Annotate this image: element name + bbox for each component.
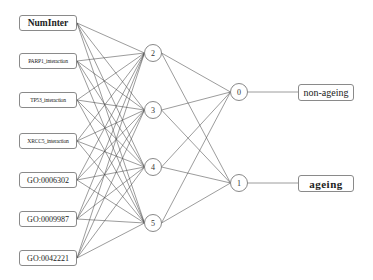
svg-text:5: 5 [151, 219, 155, 228]
edge-in1-h4 [77, 61, 145, 167]
svg-text:4: 4 [151, 163, 155, 172]
edge-in6-h4 [77, 167, 145, 258]
input-node-xrcc5-interaction: XRCC5_interaction [19, 133, 77, 149]
edge-in5-h5 [77, 219, 145, 223]
input-node-parp1-interaction: PARP1_interaction [19, 53, 77, 69]
edge-h3-o0 [162, 92, 231, 110]
edge-in0-h4 [77, 23, 145, 167]
hidden-node-2: 2 [145, 45, 162, 62]
edge-in2-h3 [77, 100, 145, 110]
edge-in5-h3 [77, 110, 145, 219]
svg-text:1: 1 [237, 179, 241, 188]
hidden-node-4: 4 [145, 159, 162, 176]
output-label-ageing: ageing [298, 175, 354, 192]
edge-in6-h3 [77, 110, 145, 258]
svg-text:0: 0 [237, 88, 241, 97]
edge-in6-h5 [77, 223, 145, 258]
input-node-go-0009987: GO:0009987 [19, 211, 77, 227]
input-node-tp53-interaction: TP53_interaction [19, 92, 77, 108]
edge-h5-o0 [162, 92, 231, 223]
edge-h4-o0 [162, 92, 231, 167]
edge-in0-h2 [77, 23, 145, 53]
svg-text:3: 3 [151, 106, 155, 115]
input-node-go-0006302: GO:0006302 [19, 172, 77, 188]
svg-text:2: 2 [151, 49, 155, 58]
hidden-node-3: 3 [145, 102, 162, 119]
input-node-go-0042221: GO:0042221 [19, 250, 77, 266]
edge-in2-h4 [77, 100, 145, 167]
edge-h4-o1 [162, 167, 231, 183]
edge-in6-h2 [77, 53, 145, 258]
edge-in3-h5 [77, 141, 145, 223]
output-node-1: 1 [231, 175, 248, 192]
hidden-node-5: 5 [145, 215, 162, 232]
edge-in4-h4 [77, 167, 145, 180]
edge-in4-h5 [77, 180, 145, 223]
input-node-numinter: NumInter [19, 15, 77, 31]
edge-h3-o1 [162, 110, 231, 183]
edge-in5-h2 [77, 53, 145, 219]
output-label-non-ageing: non-ageing [298, 84, 354, 101]
output-node-0: 0 [231, 84, 248, 101]
